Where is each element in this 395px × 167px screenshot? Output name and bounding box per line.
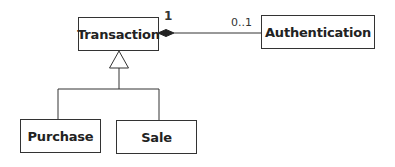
class-name: Authentication <box>265 25 371 40</box>
class-purchase[interactable]: Purchase <box>20 119 101 153</box>
class-sale[interactable]: Sale <box>116 120 197 154</box>
class-transaction[interactable]: Transaction <box>78 17 159 51</box>
generalization-triangle-icon <box>110 51 129 68</box>
multiplicity-whole: 1 <box>164 9 172 23</box>
class-authentication[interactable]: Authentication <box>261 15 375 49</box>
multiplicity-part: 0..1 <box>231 16 252 29</box>
class-name: Purchase <box>28 129 94 144</box>
class-name: Transaction <box>77 27 160 42</box>
composition-diamond-icon <box>158 30 174 37</box>
class-name: Sale <box>141 130 172 145</box>
